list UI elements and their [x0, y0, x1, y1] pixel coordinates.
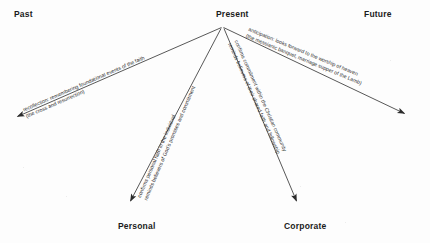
scan-speckle [66, 196, 67, 197]
axis-label-personal: Personal [118, 221, 156, 231]
axis-label-corporate: Corporate [284, 221, 326, 231]
scan-speckle [390, 60, 391, 61]
axis-label-future: Future [364, 9, 392, 19]
diagram-canvas: Past Present Future Personal Corporate r… [0, 0, 430, 243]
arrow-lines-layer [0, 0, 430, 243]
axis-label-present: Present [216, 9, 249, 19]
axis-label-past: Past [14, 9, 33, 19]
